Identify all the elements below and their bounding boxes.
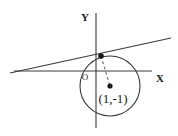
tangency-point-dot bbox=[98, 53, 104, 59]
geometry-canvas: Y X O (1,-1) bbox=[0, 0, 178, 136]
x-axis-label: X bbox=[156, 72, 164, 84]
circle-center-label: (1,-1) bbox=[98, 91, 127, 106]
origin-label: O bbox=[82, 72, 89, 82]
circle-center-dot bbox=[107, 83, 112, 88]
geometry-figure: Y X O (1,-1) bbox=[0, 0, 178, 136]
figure-background bbox=[0, 0, 178, 136]
y-axis-label: Y bbox=[81, 11, 89, 23]
